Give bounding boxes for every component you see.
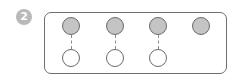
bottom-node-1 bbox=[62, 49, 80, 67]
bottom-node-2 bbox=[106, 49, 124, 67]
dashed-link-2 bbox=[115, 35, 116, 49]
top-node-3 bbox=[149, 17, 167, 35]
step-number-badge: 2 bbox=[16, 9, 32, 25]
dashed-link-3 bbox=[158, 35, 159, 49]
top-node-2 bbox=[106, 17, 124, 35]
top-node-1 bbox=[62, 17, 80, 35]
dashed-link-1 bbox=[71, 35, 72, 49]
top-node-4 bbox=[192, 17, 210, 35]
bottom-node-3 bbox=[149, 49, 167, 67]
